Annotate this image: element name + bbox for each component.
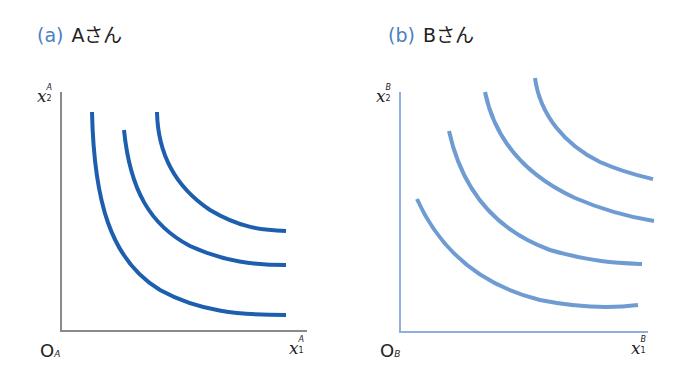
y-sub-a: 2	[47, 95, 52, 103]
origin-sub-b: B	[394, 349, 400, 359]
x-sub-b: 1	[641, 347, 646, 355]
panel-b-x-axis-label: xB1	[631, 340, 649, 357]
x-sup-b: B	[641, 336, 647, 344]
indifference-curve-b2	[449, 131, 642, 264]
panel-b-y-axis-label: xB2	[376, 88, 394, 105]
panel-a-origin-label: OA	[40, 342, 60, 360]
y-sub-b: 2	[386, 95, 391, 103]
origin-b: O	[380, 340, 394, 361]
panel-a-axes	[60, 92, 307, 332]
panel-b-curves	[417, 78, 654, 307]
origin-a: O	[40, 340, 54, 361]
panel-a-x-axis-label: xA1	[289, 340, 307, 357]
y-sup-a: A	[47, 84, 52, 92]
indifference-curve-a2	[124, 130, 286, 265]
panel-b-origin-label: OB	[380, 342, 400, 360]
indifference-curve-b4	[535, 78, 653, 179]
x-var-b: x	[631, 338, 641, 358]
indifference-curve-a1	[92, 112, 286, 315]
indifference-curve-a3	[157, 112, 286, 231]
x-sub-a: 1	[299, 347, 304, 355]
y-sup-b: B	[386, 84, 392, 92]
panel-a-y-axis-label: xA2	[37, 88, 55, 105]
x-sup-a: A	[299, 336, 304, 344]
indifference-curves-diagram	[0, 0, 686, 377]
indifference-curve-b1	[417, 199, 638, 307]
indifference-curve-b3	[485, 92, 654, 221]
origin-sub-a: A	[54, 349, 60, 359]
x-var-a: x	[289, 338, 299, 358]
y-var-a: x	[37, 86, 47, 106]
y-var-b: x	[376, 86, 386, 106]
panel-a-curves	[92, 112, 286, 315]
